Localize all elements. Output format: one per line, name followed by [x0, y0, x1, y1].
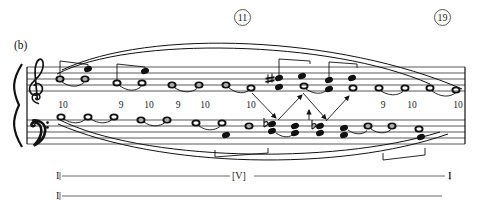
large-phrase-slur-treble-2 [62, 43, 462, 89]
bass-clef [31, 120, 48, 145]
measure-number-11: 11 [238, 12, 248, 23]
interval-figure: 9 [113, 101, 129, 111]
roman-numeral-line1-end: I [448, 171, 451, 181]
interval-figure: 10 [404, 101, 420, 111]
flat-accidental-bass-2 [312, 120, 316, 129]
roman-numeral-line1-middle: [V] [232, 171, 246, 181]
unfolding-brackets-treble [60, 59, 357, 80]
measure-number-19: 19 [438, 12, 448, 23]
analysis-arrows [252, 93, 349, 121]
interval-figure: 10 [243, 101, 259, 111]
large-phrase-slur-bass [60, 120, 440, 154]
measure-number-circle-19: 19 [434, 9, 451, 26]
sharp-accidental-treble [266, 74, 275, 84]
measure-number-circle-11: 11 [234, 9, 251, 26]
interval-figure: 10 [450, 101, 466, 111]
bass-noteheads [57, 114, 425, 141]
treble-staff [27, 67, 465, 91]
analysis-line-1 [60, 172, 450, 180]
panel-label: (b) [14, 40, 27, 52]
roman-numeral-line2-start: I [56, 191, 59, 201]
interval-figure: 10 [141, 101, 157, 111]
music-analysis-figure: (b) 11 19 10 9 10 9 10 10 9 10 10 I [V] … [0, 0, 497, 210]
treble-clef [30, 59, 44, 103]
interval-figure: 10 [55, 101, 71, 111]
system-brace [14, 64, 22, 147]
roman-numeral-line1-start: I [56, 171, 59, 181]
interval-figure: 10 [197, 101, 213, 111]
interval-figure: 9 [375, 101, 391, 111]
analysis-line-2 [60, 192, 442, 200]
interval-figure: 9 [170, 101, 186, 111]
